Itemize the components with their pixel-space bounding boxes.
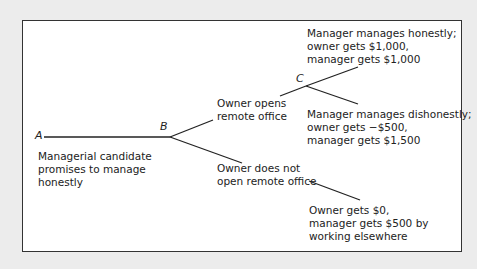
b-upper-label: Owner opens remote office [217,97,287,123]
node-a-label: A [35,129,43,142]
node-b-label: B [160,120,168,133]
edge-to-c [280,86,306,96]
b-lower-label: Owner does not open remote office [217,162,316,188]
c-upper-payoff: Manager manages honestly; owner gets $1,… [307,27,457,66]
edge-b-lower [170,137,242,163]
c-lower-payoff: Manager manages dishonestly; owner gets … [307,108,472,147]
edge-c-upper [306,67,358,86]
node-c-label: C [296,72,304,85]
edge-lower-payoff [309,181,360,200]
a-action-label: Managerial candidate promises to manage … [38,150,152,189]
b-lower-payoff: Owner gets $0, manager gets $500 by work… [309,204,429,243]
edge-b-upper [170,120,213,137]
edge-c-lower [306,86,358,104]
